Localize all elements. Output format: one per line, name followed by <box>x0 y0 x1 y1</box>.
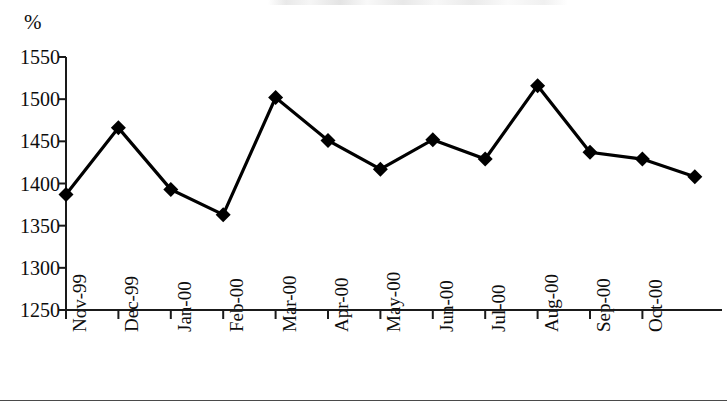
series-marker <box>373 162 388 177</box>
series-marker <box>216 207 231 222</box>
axis-tick-marks <box>58 57 642 319</box>
series-marker <box>635 152 650 167</box>
plot-area <box>0 0 727 413</box>
series-marker <box>687 169 702 184</box>
page-divider-rule <box>0 400 727 401</box>
line-chart-figure: % 1550150014501400135013001250 Nov-99Dec… <box>0 0 727 413</box>
series-marker-group <box>59 78 703 222</box>
series-line <box>66 86 695 215</box>
series-marker <box>425 132 440 147</box>
